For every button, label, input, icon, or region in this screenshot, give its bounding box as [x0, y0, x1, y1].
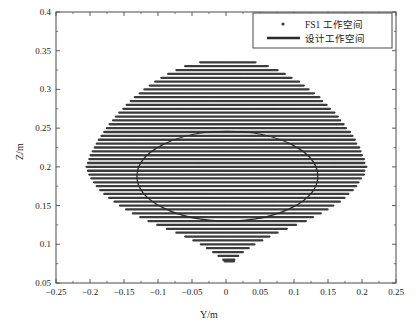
x-tick-label: −0.15 [114, 287, 135, 297]
legend-label-design: 设计工作空间 [305, 33, 365, 44]
x-tick-label: 0.25 [388, 287, 404, 297]
y-tick-label: 0.4 [40, 7, 51, 17]
y-tick-label: 0.3 [40, 84, 51, 94]
y-tick-label: 0.2 [40, 162, 51, 172]
x-tick-label: −0.2 [82, 287, 98, 297]
y-tick-label: 0.05 [35, 278, 51, 288]
y-axis-title: Z/m [14, 143, 25, 160]
chart-canvas: FS1 工作空间设计工作空间 [0, 0, 418, 330]
x-tick-label: 0.1 [288, 287, 299, 297]
x-tick-label: 0.15 [320, 287, 336, 297]
x-tick-label: −0.1 [150, 287, 166, 297]
x-axis-title: Y/m [200, 309, 218, 320]
y-tick-label: 0.25 [35, 123, 51, 133]
legend-label-fs1: FS1 工作空间 [305, 19, 363, 30]
legend-box: FS1 工作空间设计工作空间 [253, 13, 392, 48]
x-tick-label: 0 [224, 287, 229, 297]
x-tick-label: 0.2 [356, 287, 367, 297]
scatter-series-fs1-workspace [87, 62, 367, 261]
y-tick-label: 0.15 [35, 201, 51, 211]
y-tick-label: 0.35 [35, 46, 51, 56]
y-tick-label: 0.1 [40, 239, 51, 249]
x-tick-label: −0.05 [182, 287, 203, 297]
x-tick-label: 0.05 [252, 287, 268, 297]
figure-container: FS1 工作空间设计工作空间 −0.25−0.2−0.15−0.1−0.0500… [0, 0, 418, 330]
x-tick-label: −0.25 [46, 287, 67, 297]
